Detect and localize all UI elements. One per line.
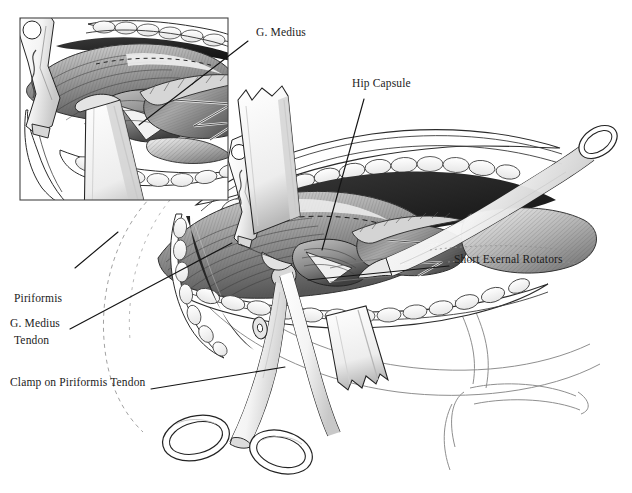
label-g-medius-inset: G. Medius: [256, 26, 306, 40]
leader-piriformis: [75, 232, 118, 268]
label-g-medius-main: G. Medius: [10, 317, 60, 331]
label-hip-capsule: Hip Capsule: [352, 77, 411, 91]
label-short-external-rotators: Short Exernal Rotators: [454, 253, 563, 267]
magnified-inset: [18, 0, 261, 232]
label-piriformis-tendon-line1: Piriformis: [14, 291, 62, 305]
label-piriformis-tendon-line2: Tendon: [14, 333, 62, 347]
surgical-illustration-figure: G. Medius Hip Capsule Short Exernal Rota…: [0, 0, 632, 493]
label-clamp-on-piriformis-tendon: Clamp on Piriformis Tendon: [10, 376, 145, 390]
buttock-contour-dashed: [103, 196, 152, 432]
illustration-canvas: [0, 0, 632, 493]
